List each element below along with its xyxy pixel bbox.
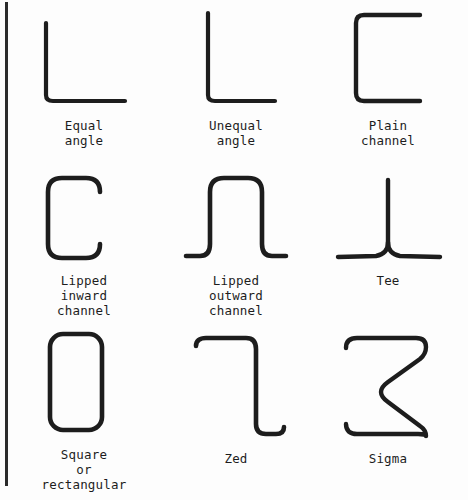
section-label: Unequal angle — [209, 118, 263, 148]
section-cell-unequal-angle: Unequal angle — [160, 6, 312, 166]
sigma-drawing — [318, 326, 458, 444]
section-cell-equal-angle: Equal angle — [8, 6, 160, 166]
square-or-rectangular-drawing — [14, 326, 154, 440]
section-cell-zed: Zed — [160, 326, 312, 492]
tee-drawing — [318, 166, 458, 266]
section-grid: Equal angle Unequal angle Plain channel — [8, 6, 464, 492]
section-cell-lipped-inward-channel: Lipped inward channel — [8, 166, 160, 326]
section-label: Lipped outward channel — [209, 273, 263, 318]
section-label: Zed — [224, 451, 247, 466]
unequal-angle-drawing — [166, 6, 306, 111]
equal-angle-drawing — [14, 6, 154, 111]
section-cell-lipped-outward-channel: Lipped outward channel — [160, 166, 312, 326]
section-label: Tee — [376, 273, 399, 288]
section-label: Equal angle — [65, 118, 104, 148]
clipped-top-caption — [22, 0, 402, 3]
section-cell-sigma: Sigma — [312, 326, 464, 492]
section-label: Plain channel — [361, 118, 415, 148]
lipped-inward-channel-drawing — [14, 166, 154, 266]
section-cell-plain-channel: Plain channel — [312, 6, 464, 166]
zed-drawing — [166, 326, 306, 444]
steel-section-figure: Equal angle Unequal angle Plain channel — [0, 0, 468, 500]
section-cell-tee: Tee — [312, 166, 464, 326]
section-cell-square-or-rectangular: Square or rectangular — [8, 326, 160, 492]
section-label: Lipped inward channel — [57, 273, 111, 318]
lipped-outward-channel-drawing — [166, 166, 306, 266]
plain-channel-drawing — [318, 6, 458, 111]
section-label: Square or rectangular — [42, 447, 127, 492]
section-label: Sigma — [369, 451, 408, 466]
